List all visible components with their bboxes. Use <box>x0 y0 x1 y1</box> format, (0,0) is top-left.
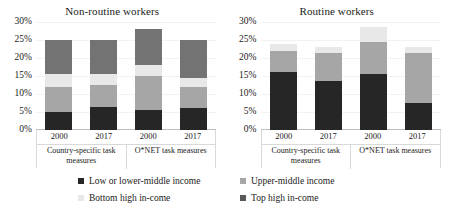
group-label: Country-specific task measures <box>37 145 126 169</box>
bar-slot <box>396 22 441 130</box>
legend-label: Top high in-come <box>251 193 318 203</box>
y-tick-label: 0% <box>244 125 257 135</box>
legend-swatch-icon <box>240 178 246 184</box>
bar-group-left <box>36 22 216 130</box>
panel-title: Routine workers <box>225 5 449 17</box>
legend-swatch-icon <box>78 178 84 184</box>
y-tick-label: 15% <box>15 71 32 81</box>
group-label: O*NET task measures <box>126 145 216 169</box>
bar-segment <box>45 40 72 74</box>
bar-slot <box>171 22 216 130</box>
bar-group-right <box>261 22 441 130</box>
y-tick-label: 10% <box>239 89 256 99</box>
y-tick-label: 30% <box>15 17 32 27</box>
bar-segment <box>270 44 297 51</box>
category-axis-left: 2000 2017 2000 2017 Country-specific tas… <box>36 130 216 168</box>
y-tick-label: 30% <box>239 17 256 27</box>
year-label: 2017 <box>306 130 351 144</box>
bar-slot <box>126 22 171 130</box>
bar-segment <box>360 42 387 74</box>
legend-label: Low or lower-middle income <box>89 176 200 186</box>
bar-segment <box>405 103 432 130</box>
legend-item-bottom-high-income: Bottom high in-come <box>78 189 240 206</box>
bar-segment <box>45 74 72 87</box>
bar-segment <box>360 74 387 130</box>
y-tick-label: 0% <box>19 125 32 135</box>
plot-area-left <box>36 22 216 130</box>
bar-segment <box>135 110 162 130</box>
stacked-bar <box>315 47 342 130</box>
bar-segment <box>315 53 342 82</box>
bar-segment <box>270 72 297 130</box>
bar-segment <box>270 51 297 73</box>
figure: Non-routine workers 30% 25% 20% 15% 10% … <box>0 0 449 207</box>
bar-segment <box>90 74 117 85</box>
bar-slot <box>306 22 351 130</box>
year-label: 2017 <box>82 130 127 144</box>
y-tick-label: 5% <box>244 107 257 117</box>
legend-label: Upper-middle income <box>251 176 334 186</box>
bar-segment <box>180 78 207 87</box>
stacked-bar <box>180 40 207 130</box>
bar-segment <box>135 76 162 110</box>
year-label: 2017 <box>395 130 440 144</box>
y-tick-label: 25% <box>15 35 32 45</box>
year-label: 2017 <box>171 130 216 144</box>
y-axis-labels-right: 30% 25% 20% 15% 10% 5% 0% <box>225 22 259 130</box>
bar-slot <box>81 22 126 130</box>
y-tick-label: 20% <box>239 53 256 63</box>
legend-item-upper-middle-income: Upper-middle income <box>240 172 378 189</box>
chart-panels: Non-routine workers 30% 25% 20% 15% 10% … <box>0 0 449 168</box>
category-axis-right: 2000 2017 2000 2017 Country-specific tas… <box>261 130 441 168</box>
panel-routine-workers: Routine workers 30% 25% 20% 15% 10% 5% 0… <box>225 0 449 168</box>
panel-title: Non-routine workers <box>0 5 225 17</box>
year-labels-row: 2000 2017 2000 2017 <box>37 130 215 144</box>
bar-segment <box>135 29 162 65</box>
year-label: 2000 <box>126 130 171 144</box>
legend-swatch-icon <box>240 195 246 201</box>
bar-segment <box>360 27 387 41</box>
year-label: 2000 <box>262 130 307 144</box>
y-tick-label: 25% <box>239 35 256 45</box>
bar-segment <box>405 53 432 103</box>
year-labels-row: 2000 2017 2000 2017 <box>262 130 440 144</box>
bar-segment <box>315 81 342 130</box>
bar-segment <box>180 40 207 78</box>
chart-legend: Low or lower-middle income Upper-middle … <box>0 170 449 207</box>
bar-segment <box>45 112 72 130</box>
year-label: 2000 <box>37 130 82 144</box>
group-labels-row: Country-specific task measures O*NET tas… <box>262 144 440 169</box>
group-label: Country-specific task measures <box>262 145 351 169</box>
year-label: 2000 <box>351 130 396 144</box>
bar-segment <box>90 107 117 130</box>
legend-label: Bottom high in-come <box>89 193 170 203</box>
group-labels-row: Country-specific task measures O*NET tas… <box>37 144 215 169</box>
legend-swatch-icon <box>78 195 84 201</box>
bar-slot <box>261 22 306 130</box>
group-label: O*NET task measures <box>350 145 440 169</box>
panel-non-routine-workers: Non-routine workers 30% 25% 20% 15% 10% … <box>0 0 225 168</box>
bar-segment <box>180 108 207 130</box>
legend-item-low-or-lower-middle-income: Low or lower-middle income <box>78 172 240 189</box>
stacked-bar <box>405 47 432 130</box>
y-tick-label: 15% <box>239 71 256 81</box>
plot-area-right <box>261 22 441 130</box>
y-tick-label: 5% <box>19 107 32 117</box>
stacked-bar <box>270 44 297 130</box>
bar-segment <box>90 85 117 107</box>
y-tick-label: 10% <box>15 89 32 99</box>
stacked-bar <box>45 40 72 130</box>
stacked-bar <box>135 29 162 130</box>
bar-segment <box>135 65 162 76</box>
bar-slot <box>36 22 81 130</box>
bar-segment <box>45 87 72 112</box>
legend-item-top-high-income: Top high in-come <box>240 189 378 206</box>
bar-slot <box>351 22 396 130</box>
stacked-bar <box>360 27 387 130</box>
stacked-bar <box>90 40 117 130</box>
y-axis-labels-left: 30% 25% 20% 15% 10% 5% 0% <box>0 22 34 130</box>
y-tick-label: 20% <box>15 53 32 63</box>
bar-segment <box>180 87 207 109</box>
legend-grid: Low or lower-middle income Upper-middle … <box>78 172 378 206</box>
bar-segment <box>90 40 117 74</box>
